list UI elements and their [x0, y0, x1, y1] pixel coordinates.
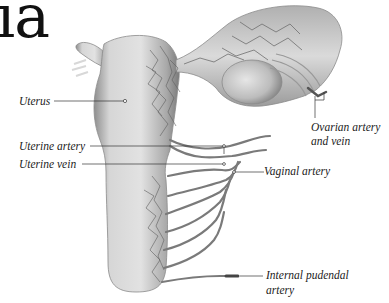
label-uterine-vein: Uterine vein [19, 157, 76, 171]
ovary-tube [176, 6, 342, 107]
label-uterus: Uterus [19, 94, 50, 108]
label-ovarian-artery-line2: and vein [311, 134, 350, 148]
label-internal-pudendal-line2: artery [266, 283, 294, 297]
label-vaginal-artery: Vaginal artery [264, 164, 330, 178]
pelvic-vessels [162, 136, 270, 282]
anatomy-diagram: ia [0, 0, 389, 303]
label-ovarian-artery-line1: Ovarian artery [311, 120, 380, 134]
label-uterine-artery: Uterine artery [19, 139, 85, 153]
label-internal-pudendal-line1: Internal pudendal [266, 268, 349, 282]
